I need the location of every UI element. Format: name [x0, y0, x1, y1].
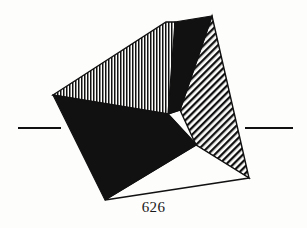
figure-caption: 626 — [0, 198, 307, 216]
geometric-figure-illustration — [0, 0, 307, 228]
figure-page: 626 — [0, 0, 307, 228]
caption-number: 626 — [142, 199, 166, 215]
